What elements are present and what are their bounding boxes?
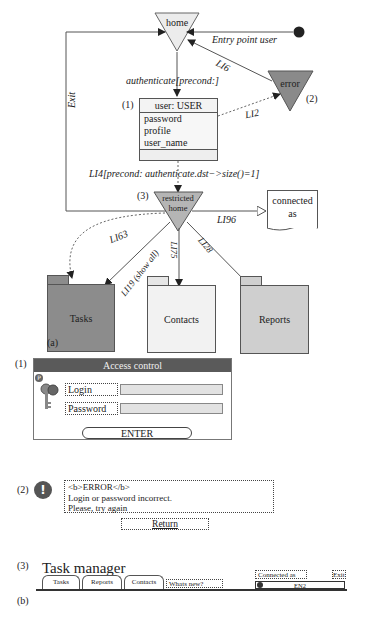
error-node-shape <box>268 71 313 111</box>
error-line: <b>ERROR</b> <box>68 482 270 493</box>
password-input[interactable] <box>120 403 223 414</box>
restricted-node-number: (3) <box>137 190 149 201</box>
reports-folder-label: Reports <box>240 285 309 354</box>
user-icon <box>257 582 263 588</box>
task-manager-title: Task manager <box>42 560 126 576</box>
error-line: Please, try again <box>68 503 270 514</box>
class-box-number: (1) <box>122 99 134 110</box>
keys-icon <box>39 382 61 412</box>
contacts-folder: Contacts <box>147 276 216 353</box>
user-class-box: user: USER password profile user_name <box>139 98 218 161</box>
contacts-folder-label: Contacts <box>147 285 216 353</box>
login-input[interactable] <box>120 384 223 395</box>
link-li75-label: LI75 <box>169 241 179 258</box>
tab-contacts[interactable]: Contacts <box>124 575 164 589</box>
error-dialog-number: (2) <box>17 484 29 495</box>
task-manager-divider <box>36 589 347 591</box>
task-manager-number: (3) <box>17 560 29 571</box>
user-field: EN2 <box>255 581 345 589</box>
alert-icon: ! <box>34 481 52 499</box>
link-li96-label: LI96 <box>217 214 236 225</box>
link-authenticate-label: authenticate[precond:] <box>126 75 219 86</box>
class-attribute: user_name <box>144 137 217 149</box>
class-box-header: user: USER <box>140 99 217 113</box>
restricted-home-node-label: restricted home <box>158 193 198 213</box>
home-node-label: home <box>163 17 191 28</box>
link-li4-label: LI4[precond: authenticate.dst−>size()=1] <box>89 168 259 179</box>
enter-button[interactable]: ENTER <box>82 427 192 439</box>
tab-tasks[interactable]: Tasks <box>42 575 80 589</box>
tab-reports[interactable]: Reports <box>82 575 122 589</box>
error-node-number: (2) <box>306 93 318 104</box>
return-button[interactable]: Return <box>121 518 209 530</box>
connected-as-label: Connected as <box>255 570 307 579</box>
access-control-panel: Access control P Login Password ENTER <box>33 358 232 440</box>
class-attribute: profile <box>144 125 217 137</box>
connected-as-document: connected as <box>267 190 318 228</box>
access-control-number: (1) <box>15 358 27 369</box>
login-label: Login <box>65 383 118 396</box>
exit-link[interactable]: Exit <box>332 570 346 579</box>
entry-point-dot <box>294 27 305 38</box>
password-label: Password <box>65 402 118 415</box>
panel-label-b: (b) <box>17 595 29 606</box>
panel-label-a: (a) <box>47 337 58 348</box>
error-message-box: <b>ERROR</b> Login or password incorrect… <box>64 480 274 513</box>
whats-new-link[interactable]: Whats new? <box>166 579 223 588</box>
info-icon: P <box>35 374 43 382</box>
error-line: Login or password incorrect. <box>68 493 270 504</box>
user-value: EN2 <box>294 582 306 589</box>
link-exit-label: Exit <box>66 92 77 108</box>
error-node-label: error <box>277 78 303 89</box>
reports-folder: Reports <box>240 276 309 354</box>
class-attribute: password <box>144 113 217 125</box>
access-control-title: Access control <box>34 359 231 372</box>
entry-point-label: Entry point user <box>212 34 277 45</box>
